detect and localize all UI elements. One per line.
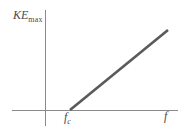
data-line-ke-vs-frequency <box>70 30 168 110</box>
threshold-label-subscript: c <box>67 117 71 126</box>
threshold-frequency-label: fc <box>64 111 71 123</box>
y-axis-label: KEmax <box>13 9 43 21</box>
x-axis-label-base: f <box>164 109 167 123</box>
y-axis-label-subscript: max <box>28 15 42 24</box>
figure-root: KEmax fc f <box>0 0 183 136</box>
x-axis-label: f <box>164 110 167 122</box>
y-axis-label-base: KE <box>13 8 28 22</box>
